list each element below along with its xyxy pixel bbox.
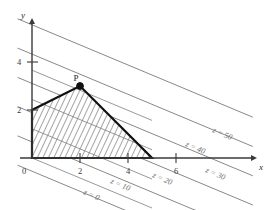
x-tick-label-4: 4 <box>126 166 131 176</box>
point-p-marker <box>77 83 84 90</box>
x-axis-label: x <box>258 162 263 172</box>
iso-label-z20: z = 20 <box>150 170 173 187</box>
iso-label-z40: z = 40 <box>183 139 206 156</box>
iso-line-z0-overlay <box>32 158 152 208</box>
y-tick-label-4: 4 <box>17 57 22 67</box>
x-tick-label-2: 2 <box>78 166 82 176</box>
iso-label-z50: z = 50 <box>210 125 233 142</box>
linear-programming-figure: y x 4 2 0 2 4 6 P z = 0 z = 10 z = 20 z … <box>0 0 274 210</box>
x-tick-label-0: 0 <box>22 166 26 176</box>
y-tick-label-2: 2 <box>17 105 21 115</box>
x-tick-label-6: 6 <box>174 166 178 176</box>
y-axis-label: y <box>20 10 25 20</box>
point-p-label: P <box>73 73 78 83</box>
iso-label-z30: z = 30 <box>203 165 226 182</box>
iso-label-z10: z = 10 <box>108 176 131 193</box>
iso-label-z0: z = 0 <box>81 187 101 202</box>
plot-canvas: y x 4 2 0 2 4 6 P z = 0 z = 10 z = 20 z … <box>0 0 274 210</box>
